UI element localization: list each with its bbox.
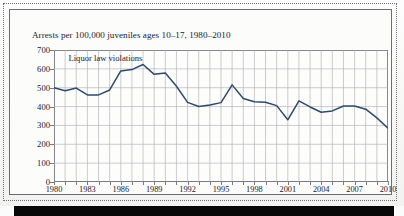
- x-tick-mark: [366, 181, 367, 185]
- x-tick-mark: [199, 181, 200, 185]
- x-tick-label: 1992: [179, 185, 196, 194]
- x-tick-mark: [355, 181, 356, 185]
- y-tick-label: 200: [37, 139, 50, 149]
- x-tick-mark: [277, 181, 278, 185]
- y-tick-label: 300: [37, 120, 50, 130]
- x-tick-mark: [321, 181, 322, 185]
- x-tick-mark: [132, 181, 133, 185]
- x-axis-tick-labels: 1980198319861989199219951998200120042007…: [54, 185, 388, 199]
- x-tick-mark: [54, 181, 55, 185]
- x-tick-mark: [332, 181, 333, 185]
- x-tick-mark: [288, 181, 289, 185]
- x-tick-mark: [299, 181, 300, 185]
- x-tick-mark: [377, 181, 378, 185]
- x-tick-label: 2010: [380, 185, 397, 194]
- x-tick-label: 1986: [113, 185, 130, 194]
- x-tick-mark: [176, 181, 177, 185]
- figure-frame: Arrests per 100,000 juveniles ages 10–17…: [9, 9, 392, 195]
- x-tick-label: 1983: [79, 185, 96, 194]
- y-tick-label: 700: [37, 45, 50, 55]
- x-tick-mark: [154, 181, 155, 185]
- series-annotation-label: Liquor law violations: [68, 53, 142, 63]
- x-tick-mark: [210, 181, 211, 185]
- x-tick-mark: [165, 181, 166, 185]
- x-tick-mark: [254, 181, 255, 185]
- page-bottom-black-bar: [14, 206, 394, 216]
- x-tick-mark: [310, 181, 311, 185]
- y-tick-label: 500: [37, 83, 50, 93]
- x-tick-mark: [243, 181, 244, 185]
- x-tick-mark: [121, 181, 122, 185]
- x-tick-mark: [76, 181, 77, 185]
- x-tick-mark: [388, 181, 389, 185]
- series-liquor-law-violations: [54, 50, 388, 182]
- x-tick-label: 2004: [313, 185, 330, 194]
- x-tick-label: 1995: [213, 185, 230, 194]
- scanned-page: Arrests per 100,000 juveniles ages 10–17…: [0, 0, 404, 216]
- x-tick-label: 2001: [280, 185, 297, 194]
- y-tick-label: 400: [37, 102, 50, 112]
- x-tick-mark: [188, 181, 189, 185]
- chart-title: Arrests per 100,000 juveniles ages 10–17…: [32, 30, 231, 40]
- y-tick-label: 600: [37, 64, 50, 74]
- x-tick-mark: [110, 181, 111, 185]
- x-tick-mark: [266, 181, 267, 185]
- x-tick-mark: [99, 181, 100, 185]
- y-tick-label: 100: [37, 158, 50, 168]
- x-tick-label: 1980: [46, 185, 63, 194]
- y-axis-tick-labels: 0100200300400500600700: [24, 50, 50, 182]
- x-tick-mark: [221, 181, 222, 185]
- x-tick-mark: [143, 181, 144, 185]
- x-tick-mark: [232, 181, 233, 185]
- x-tick-label: 1989: [146, 185, 163, 194]
- x-tick-mark: [65, 181, 66, 185]
- plot-area-wrapper: Liquor law violations: [54, 50, 388, 182]
- x-tick-mark: [343, 181, 344, 185]
- x-tick-label: 2007: [346, 185, 363, 194]
- x-tick-mark: [87, 181, 88, 185]
- x-tick-label: 1998: [246, 185, 263, 194]
